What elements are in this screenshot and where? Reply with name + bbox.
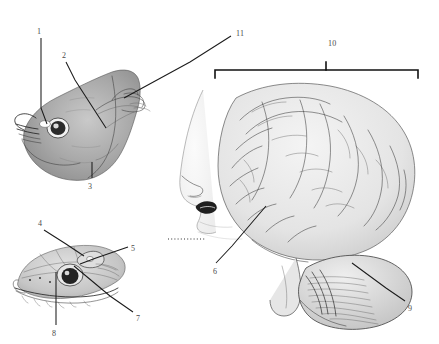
label-2: 2: [62, 52, 66, 60]
leader-9: [352, 263, 405, 301]
label-1: 1: [37, 28, 41, 36]
brain-span-bracket: [215, 62, 418, 78]
leader-4: [44, 230, 84, 256]
leader-6: [216, 206, 266, 263]
leader-7: [74, 266, 133, 312]
human-head-brain-drawing: [180, 83, 415, 329]
leader-2: [66, 62, 106, 128]
label-3: 3: [88, 183, 92, 191]
fish-head-drawing: [15, 70, 150, 180]
leader-11: [124, 36, 231, 98]
label-6: 6: [213, 268, 217, 276]
label-8: 8: [52, 330, 56, 338]
label-5: 5: [131, 245, 135, 253]
leader-lines: [41, 36, 405, 325]
leader-1: [41, 38, 47, 124]
label-10: 10: [328, 40, 337, 48]
label-9: 9: [408, 305, 412, 313]
lizard-head-drawing: [13, 245, 125, 308]
leader-5: [80, 247, 128, 264]
label-7: 7: [136, 315, 140, 323]
label-4: 4: [38, 220, 42, 228]
anatomy-figure: 1 2 3 4 5 6 7 8 9 10 11: [0, 0, 439, 344]
label-11: 11: [236, 30, 244, 38]
